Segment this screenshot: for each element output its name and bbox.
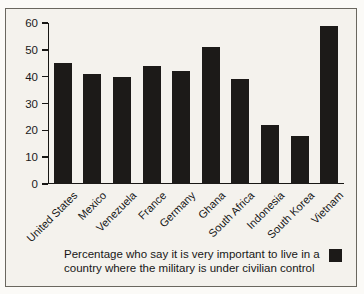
chart-frame: Percentage who say it is very important …: [5, 8, 357, 287]
bar-venezuela: [113, 77, 131, 184]
y-axis-tick-label: 60: [10, 16, 38, 30]
y-axis-tick: [42, 49, 48, 51]
legend-swatch: [329, 249, 342, 262]
bar-ghana: [202, 47, 220, 184]
y-axis-tick: [42, 76, 48, 78]
y-axis-tick-label: 20: [10, 123, 38, 137]
y-axis-tick: [42, 130, 48, 132]
bar-south-africa: [231, 79, 249, 184]
bar-vietnam: [320, 26, 338, 184]
bar-germany: [172, 71, 190, 184]
bar-france: [143, 66, 161, 184]
y-axis-tick-label: 10: [10, 150, 38, 164]
bar-mexico: [83, 74, 101, 184]
y-axis-tick: [42, 22, 48, 24]
bar-south-korea: [291, 136, 309, 184]
y-axis-tick: [42, 183, 48, 185]
y-axis-tick: [42, 103, 48, 105]
y-axis-tick-label: 30: [10, 97, 38, 111]
chart-caption-line-2: country where the military is under civi…: [64, 262, 330, 276]
y-axis-tick: [42, 156, 48, 158]
y-axis-tick-label: 0: [10, 177, 38, 191]
y-axis-tick-label: 50: [10, 43, 38, 57]
bar-united-states: [54, 63, 72, 184]
y-axis-tick-label: 40: [10, 70, 38, 84]
bar-indonesia: [261, 125, 279, 184]
